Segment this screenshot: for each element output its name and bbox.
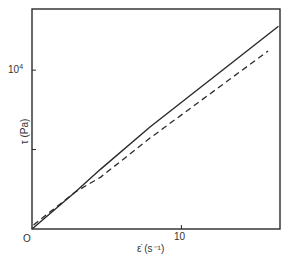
y-tick-base: 10 <box>8 64 19 75</box>
plot-area <box>0 0 289 258</box>
y-tick-exponent: 4 <box>19 63 23 70</box>
y-axis-label: τ (Pa) <box>19 102 30 162</box>
x-axis-label: ε̇ (s⁻¹) <box>137 243 164 254</box>
series-solid-line <box>32 26 279 229</box>
series-dashed-line <box>34 51 269 225</box>
origin-label: O <box>23 233 31 244</box>
y-tick-label-10e4: 104 <box>8 63 23 75</box>
x-tick-label-10: 10 <box>174 231 185 242</box>
axis-ticks <box>32 70 181 229</box>
